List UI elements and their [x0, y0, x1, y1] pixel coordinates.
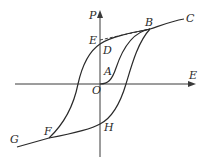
- p-axis-label: P: [89, 10, 96, 21]
- point-label-d: D: [103, 45, 112, 56]
- e-axis-label: E: [189, 70, 197, 81]
- saturation-branch-BC: [150, 19, 184, 29]
- hysteresis-diagram: P E O A B C D E F G H: [0, 0, 204, 166]
- p-axis-arrow-icon: [97, 10, 103, 18]
- point-label-a: A: [104, 66, 112, 77]
- hysteresis-plot: [0, 0, 204, 166]
- point-label-h: H: [104, 122, 114, 133]
- origin-label: O: [92, 85, 101, 96]
- point-label-e: E: [89, 35, 97, 46]
- point-label-c: C: [186, 13, 194, 24]
- saturation-branch-FG: [17, 138, 49, 147]
- point-label-f: F: [44, 126, 52, 137]
- point-label-b: B: [145, 17, 153, 28]
- point-label-g: G: [10, 134, 19, 145]
